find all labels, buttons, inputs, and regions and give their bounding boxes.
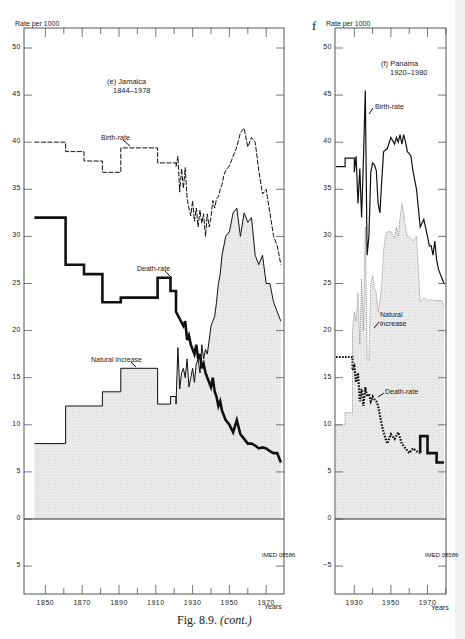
page-edge-shadow	[455, 0, 465, 639]
panel-title-jamaica-line1: (e) Jamaica	[107, 77, 146, 86]
figure-caption: Fig. 8.9. (cont.)	[177, 613, 252, 628]
y-tick-panama: 50	[323, 43, 332, 50]
y-tick-panama: 20	[323, 326, 332, 333]
jamaica-panel	[24, 28, 284, 594]
label-death-rate-jamaica: Death-rate	[137, 265, 170, 272]
x-tick-panama: 1930	[346, 599, 364, 606]
panel-title-panama-line1: (f) Panama	[381, 59, 418, 68]
label-natural-increase-panama-line2: increase	[380, 320, 406, 327]
y-tick-jamaica: 15	[12, 373, 21, 380]
y-tick-jamaica: 0	[17, 514, 21, 521]
y-tick-jamaica: 35	[12, 184, 21, 191]
x-tick-jamaica: 1870	[73, 599, 91, 606]
x-tick-jamaica: 1850	[37, 599, 55, 606]
y-tick-jamaica: 10	[12, 420, 21, 427]
y-tick-panama: 5	[328, 467, 332, 474]
y-tick-jamaica: 5	[17, 561, 21, 568]
stamp-jamaica: IMED 08586	[262, 552, 295, 558]
stamp-panama: IMED 08586	[425, 552, 458, 558]
y-tick-panama: −5	[323, 561, 332, 568]
label-death-rate-panama: Death-rate	[385, 388, 418, 395]
y-tick-jamaica: 50	[12, 43, 21, 50]
y-tick-panama: 30	[323, 231, 332, 238]
y-axis-label-jamaica: Rate per 1000	[15, 20, 59, 27]
y-tick-panama: 45	[323, 90, 332, 97]
natural-increase-area	[34, 208, 281, 519]
y-axis-label-panama: Rate per 1000	[326, 20, 370, 27]
y-tick-panama: 15	[323, 373, 332, 380]
y-tick-panama: 25	[323, 279, 332, 286]
y-tick-panama: 40	[323, 137, 332, 144]
label-birth-rate-jamaica: Birth-rate	[101, 134, 130, 141]
y-tick-panama: 10	[323, 420, 332, 427]
x-tick-panama: 1970	[419, 599, 437, 606]
x-tick-jamaica: 1950	[221, 599, 239, 606]
y-tick-jamaica: 5	[17, 467, 21, 474]
caption-suffix: (cont.)	[220, 613, 252, 627]
y-tick-jamaica: 45	[12, 90, 21, 97]
label-birth-rate-panama: Birth-rate	[375, 103, 404, 110]
y-tick-jamaica: 40	[12, 137, 21, 144]
panel-title-jamaica-line2: 1844–1978	[113, 86, 151, 95]
panel-title-panama-line2: 1920–1980	[390, 68, 428, 77]
annotation-leader	[369, 108, 373, 114]
caption-prefix: Fig. 8.9.	[177, 613, 217, 627]
y-tick-jamaica: 20	[12, 326, 21, 333]
x-tick-jamaica: 1910	[147, 599, 165, 606]
label-natural-increase-panama-line1: Natural	[380, 311, 403, 318]
y-tick-jamaica: 30	[12, 231, 21, 238]
y-tick-jamaica: 25	[12, 279, 21, 286]
x-tick-jamaica: 1930	[184, 599, 202, 606]
panel-letter-f: f	[312, 18, 316, 34]
x-tick-jamaica: 1890	[110, 599, 128, 606]
y-tick-panama: 35	[323, 184, 332, 191]
x-tick-jamaica: 1970	[257, 599, 275, 606]
label-natural-increase-jamaica: Natural increase	[91, 356, 142, 363]
y-tick-panama: 0	[328, 514, 332, 521]
x-tick-panama: 1950	[382, 599, 400, 606]
